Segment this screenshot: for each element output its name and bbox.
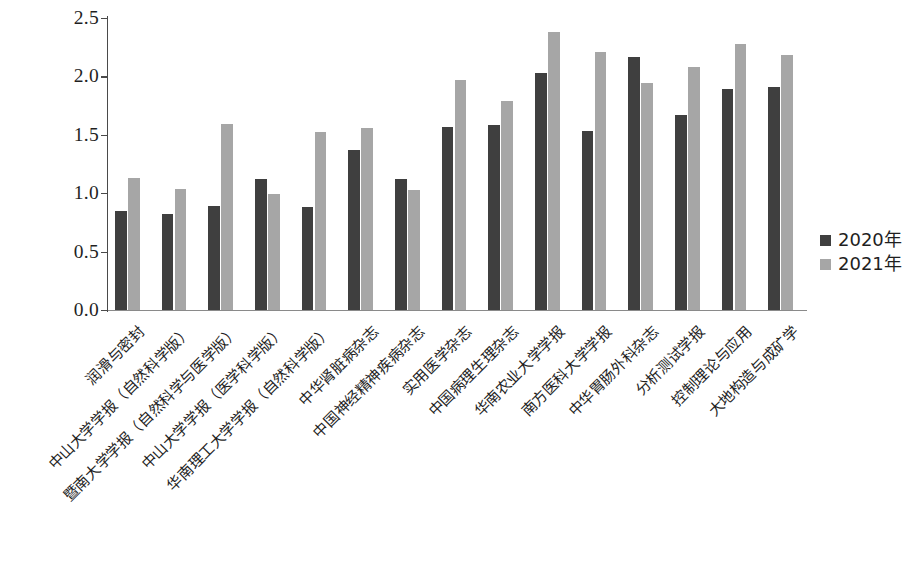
bar-0 <box>395 179 407 310</box>
chart-legend: 2020年2021年 <box>820 228 902 276</box>
bar-group <box>248 18 295 310</box>
bar-1 <box>268 194 280 310</box>
bar-group <box>108 18 155 310</box>
bar-group <box>761 18 808 310</box>
legend-swatch-icon <box>820 235 831 246</box>
bar-0 <box>722 89 734 310</box>
legend-item[interactable]: 2020年 <box>820 228 902 252</box>
bar-0 <box>582 131 594 310</box>
bar-group <box>715 18 762 310</box>
bar-0 <box>768 87 780 310</box>
bar-1 <box>408 190 420 310</box>
bar-1 <box>595 52 607 310</box>
bar-group <box>388 18 435 310</box>
bar-0 <box>488 125 500 310</box>
x-axis-category-label: 大地构造与成矿学 <box>706 324 801 419</box>
x-axis-category-label: 分析测试学报 <box>634 324 708 398</box>
legend-swatch-icon <box>820 259 831 270</box>
bar-1 <box>361 128 373 310</box>
bar-0 <box>535 73 547 310</box>
bar-group <box>295 18 342 310</box>
x-axis-category-label: 华南农业大学学报 <box>472 324 567 419</box>
legend-label: 2021年 <box>838 255 902 273</box>
x-axis-category-label: 润滑与密封 <box>84 324 148 388</box>
bar-0 <box>162 214 174 310</box>
bar-1 <box>175 189 187 310</box>
y-axis-tick-label: 0.0 <box>74 300 108 320</box>
legend-label: 2020年 <box>838 231 902 249</box>
bar-group <box>528 18 575 310</box>
bar-1 <box>548 32 560 310</box>
legend-item[interactable]: 2021年 <box>820 252 902 276</box>
bar-group <box>435 18 482 310</box>
bar-0 <box>255 179 267 310</box>
y-axis-tick-label: 2.5 <box>74 8 108 28</box>
x-axis-category-label: 中国神经精神疾病杂志 <box>311 324 428 441</box>
bar-1 <box>501 101 513 310</box>
x-axis-category-label: 暨南大学学报（自然科学与医学版） <box>61 324 241 504</box>
x-axis-category-label: 南方医科大学学报 <box>519 324 614 419</box>
bar-0 <box>348 150 360 310</box>
x-axis-category-label: 中华胃肠外科杂志 <box>566 324 661 419</box>
bar-group <box>668 18 715 310</box>
bar-0 <box>208 206 220 310</box>
bar-1 <box>688 67 700 310</box>
bar-1 <box>128 178 140 310</box>
bar-0 <box>442 127 454 310</box>
x-axis-category-label: 实用医学杂志 <box>400 324 474 398</box>
plot-area: 0.00.51.01.52.02.5 <box>108 18 808 310</box>
bar-1 <box>781 55 793 310</box>
x-axis-category-label: 中山大学学报（自然科学版） <box>46 324 194 472</box>
x-axis-category-label: 控制理论与应用 <box>670 324 755 409</box>
bar-group <box>575 18 622 310</box>
bar-1 <box>735 44 747 310</box>
x-axis-category-label: 中国病理生理杂志 <box>426 324 521 419</box>
bar-group <box>481 18 528 310</box>
bar-0 <box>628 57 640 310</box>
y-axis-tick-label: 0.5 <box>74 242 108 262</box>
x-axis-category-label: 中华肾脏病杂志 <box>296 324 381 409</box>
bar-0 <box>302 207 314 310</box>
bar-group <box>201 18 248 310</box>
bar-group <box>341 18 388 310</box>
bar-group <box>155 18 202 310</box>
y-axis-tick-label: 1.5 <box>74 125 108 145</box>
bar-1 <box>455 80 467 310</box>
bar-1 <box>641 83 653 310</box>
bar-0 <box>675 115 687 310</box>
x-axis-category-label: 中山大学学报（医学科学版） <box>139 324 287 472</box>
y-axis-tick-label: 2.0 <box>74 67 108 87</box>
y-axis-tick-label: 1.0 <box>74 183 108 203</box>
chart-figure: 0.00.51.01.52.02.5 润滑与密封中山大学学报（自然科学版）暨南大… <box>0 0 903 567</box>
bar-group <box>621 18 668 310</box>
bar-0 <box>115 211 127 310</box>
x-axis-category-label: 华南理工大学学报（自然科学版） <box>165 324 335 494</box>
bar-1 <box>315 132 327 310</box>
bar-1 <box>221 124 233 310</box>
x-axis-line <box>107 310 807 311</box>
